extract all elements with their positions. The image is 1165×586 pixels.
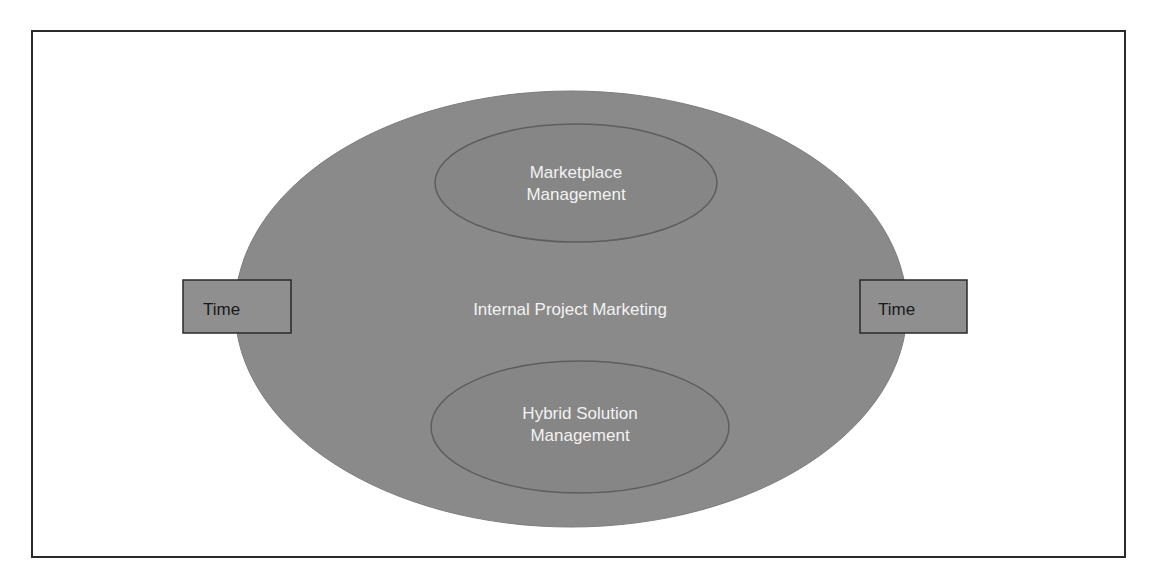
inner-bottom-line2: Management xyxy=(480,425,680,447)
inner-bottom-label: Hybrid Solution Management xyxy=(480,403,680,447)
outer-label: Internal Project Marketing xyxy=(420,299,720,321)
inner-top-line1: Marketplace xyxy=(476,162,676,184)
inner-bottom-line1: Hybrid Solution xyxy=(480,403,680,425)
time-left-label: Time xyxy=(203,299,240,321)
diagram-canvas xyxy=(0,0,1165,586)
time-right-label: Time xyxy=(878,299,915,321)
inner-top-line2: Management xyxy=(476,184,676,206)
inner-top-label: Marketplace Management xyxy=(476,162,676,206)
